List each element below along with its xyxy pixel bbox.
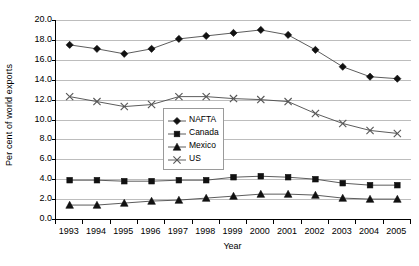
x-axis-tick-mark <box>219 220 220 224</box>
data-point <box>312 110 319 117</box>
data-point <box>66 93 73 100</box>
line-chart: Per cent of world exports 0.02.04.06.08.… <box>0 0 419 266</box>
x-axis-tick-mark <box>55 220 56 224</box>
data-point <box>66 41 73 48</box>
data-point <box>203 32 210 39</box>
y-axis-tick-label: 4.0 <box>18 174 52 183</box>
series-mexico <box>66 190 401 208</box>
x-axis-tick-labels: 1993199419951996199719981999200020012002… <box>55 220 411 240</box>
data-point <box>339 120 346 127</box>
x-axis-tick-mark <box>82 220 83 224</box>
x-axis-tick-label: 2001 <box>277 226 297 236</box>
data-point <box>175 35 182 42</box>
data-point <box>313 176 319 182</box>
y-axis-tick-label: 0.0 <box>18 214 52 223</box>
data-point <box>258 173 264 179</box>
data-point <box>367 182 373 188</box>
x-axis-tick-label: 1993 <box>59 226 79 236</box>
x-axis-tick-label: 1998 <box>195 226 215 236</box>
legend-label: US <box>189 152 201 164</box>
data-point <box>285 174 291 180</box>
x-axis-tick-label: 2003 <box>332 226 352 236</box>
square-marker-icon <box>167 126 187 138</box>
data-point <box>94 177 100 183</box>
y-axis-tick-labels: 0.02.04.06.08.010.012.014.016.018.020.0 <box>14 20 52 219</box>
series-us <box>66 93 401 137</box>
x-axis-title: Year <box>55 241 410 251</box>
data-point <box>394 75 401 82</box>
legend-label: Canada <box>189 126 219 138</box>
diamond-marker-icon <box>167 113 187 125</box>
x-axis-tick-mark <box>110 220 111 224</box>
legend-label: Mexico <box>189 139 216 151</box>
legend-label: NAFTA <box>189 113 216 125</box>
x-axis-tick-mark <box>192 220 193 224</box>
data-point <box>340 180 346 186</box>
data-point <box>203 177 209 183</box>
x-axis-tick-mark <box>164 220 165 224</box>
x-axis-tick-mark <box>383 220 384 224</box>
y-axis-tick-label: 8.0 <box>18 134 52 143</box>
y-axis-tick-label: 18.0 <box>18 35 52 44</box>
data-point <box>231 174 237 180</box>
x-axis-tick-label: 1999 <box>222 226 242 236</box>
y-axis-tick-label: 16.0 <box>18 55 52 64</box>
x-axis-tick-label: 2005 <box>386 226 406 236</box>
data-point <box>176 177 182 183</box>
y-axis-tick-label: 2.0 <box>18 194 52 203</box>
x-axis-tick-mark <box>246 220 247 224</box>
data-point <box>366 73 373 80</box>
x-axis-tick-mark <box>137 220 138 224</box>
x-axis-tick-label: 1995 <box>113 226 133 236</box>
x-axis-tick-label: 2004 <box>359 226 379 236</box>
legend-item-canada: Canada <box>167 125 221 138</box>
data-point <box>121 50 128 57</box>
y-axis-tick-label: 14.0 <box>18 75 52 84</box>
x-axis-tick-mark <box>355 220 356 224</box>
x-axis-tick-mark <box>301 220 302 224</box>
y-axis-tick-label: 12.0 <box>18 95 52 104</box>
series-nafta <box>66 26 401 82</box>
data-point <box>93 45 100 52</box>
data-point <box>149 178 155 184</box>
cross-marker-icon <box>167 152 187 164</box>
data-point <box>93 98 100 105</box>
data-point <box>67 177 73 183</box>
y-axis-title-label: Per cent of world exports <box>4 64 14 166</box>
data-point <box>312 46 319 53</box>
legend-item-us: US <box>167 151 221 164</box>
data-point <box>395 182 401 188</box>
data-point <box>339 63 346 70</box>
data-point <box>285 31 292 38</box>
series-layer <box>56 20 411 219</box>
x-axis-tick-mark <box>410 220 411 224</box>
x-axis-tick-mark <box>273 220 274 224</box>
x-axis-tick-label: 2002 <box>304 226 324 236</box>
data-point <box>257 26 264 33</box>
data-point <box>230 29 237 36</box>
legend-item-mexico: Mexico <box>167 138 221 151</box>
x-axis-tick-label: 1996 <box>141 226 161 236</box>
plot-area <box>55 20 411 220</box>
triangle-marker-icon <box>167 139 187 151</box>
chart-legend: NAFTACanadaMexicoUS <box>163 108 224 170</box>
data-point <box>121 178 127 184</box>
y-axis-tick-label: 6.0 <box>18 154 52 163</box>
data-point <box>148 45 155 52</box>
series-canada <box>67 173 400 188</box>
x-axis-tick-label: 2000 <box>250 226 270 236</box>
x-axis-tick-mark <box>328 220 329 224</box>
y-axis-tick-label: 10.0 <box>18 115 52 124</box>
x-axis-tick-label: 1997 <box>168 226 188 236</box>
x-axis-tick-label: 1994 <box>86 226 106 236</box>
legend-item-nafta: NAFTA <box>167 112 221 125</box>
y-axis-tick-label: 20.0 <box>18 15 52 24</box>
